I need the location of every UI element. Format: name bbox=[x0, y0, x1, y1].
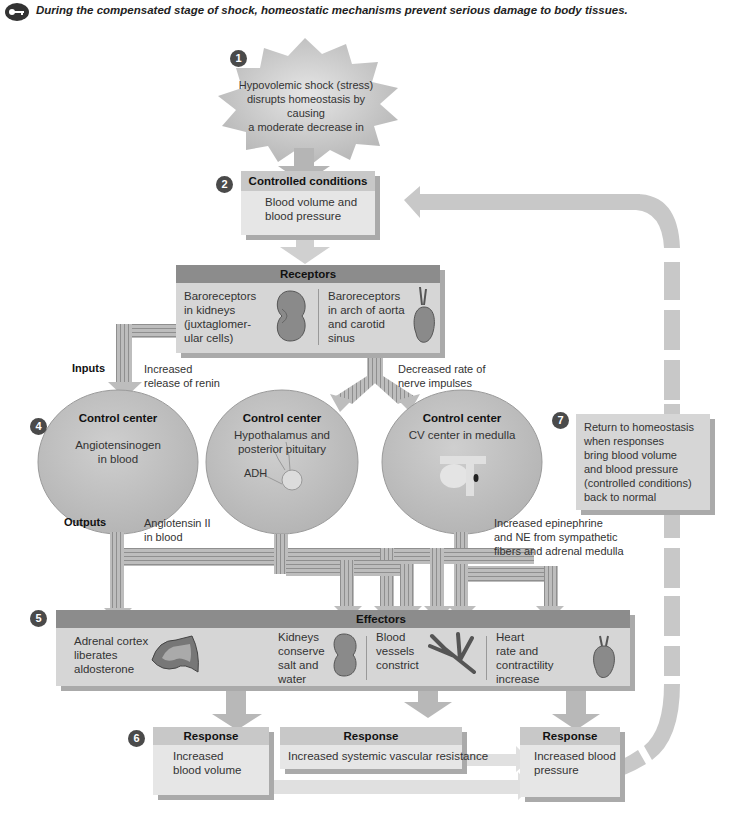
controlled-line: Blood volume and bbox=[265, 195, 375, 209]
note-line: Angiotensin II bbox=[144, 516, 211, 530]
response-body: Increased blood pressure bbox=[520, 745, 620, 797]
effectors-title: Effectors bbox=[56, 610, 630, 628]
note-line: in blood bbox=[144, 530, 211, 544]
cc-line: in blood bbox=[58, 452, 178, 466]
effector-line: liberates bbox=[74, 648, 148, 662]
response-title: Response bbox=[153, 727, 269, 745]
note-line: Increased epinephrine bbox=[494, 516, 624, 530]
kidney-icon bbox=[272, 289, 308, 347]
effector-line: Adrenal cortex bbox=[74, 634, 148, 648]
blood-vessel-icon bbox=[424, 632, 480, 680]
receptor-line: ular cells) bbox=[184, 331, 256, 345]
effector-line: Heart bbox=[496, 630, 554, 644]
effectors-box: Effectors Adrenal cortex liberates aldos… bbox=[56, 610, 630, 686]
note-line: release of renin bbox=[144, 376, 220, 390]
response-title: Response bbox=[280, 727, 462, 745]
receptor-line: in arch of aorta bbox=[328, 303, 405, 317]
outputs-label: Outputs bbox=[64, 516, 106, 528]
key-icon bbox=[4, 2, 30, 22]
response-body: Increased blood volume bbox=[153, 745, 269, 795]
note-line: Increased bbox=[144, 362, 220, 376]
effector-line: rate and bbox=[496, 644, 554, 658]
response-vascular-resistance: Response Increased systemic vascular res… bbox=[280, 727, 462, 769]
step-number-6: 6 bbox=[128, 730, 145, 747]
control-center-title: Control center bbox=[222, 412, 342, 424]
receptor-line: Baroreceptors bbox=[328, 289, 405, 303]
receptor-line: Baroreceptors bbox=[184, 289, 256, 303]
effector-line: Kidneys bbox=[278, 630, 325, 644]
note-line: and NE from sympathetic bbox=[494, 530, 624, 544]
outputs-left-note: Angiotensin II in blood bbox=[144, 516, 211, 544]
effector-heart-text: Heart rate and contractility increase bbox=[496, 630, 554, 686]
effector-line: salt and bbox=[278, 658, 325, 672]
note-line: Decreased rate of bbox=[398, 362, 485, 376]
step-number-4: 4 bbox=[30, 418, 47, 435]
return-line: (controlled conditions) bbox=[584, 476, 702, 490]
return-homeostasis-box: Return to homeostasis when responses bri… bbox=[576, 414, 710, 510]
return-line: and blood pressure bbox=[584, 462, 702, 476]
response-line: pressure bbox=[534, 763, 620, 777]
receptor-aorta-text: Baroreceptors in arch of aorta and carot… bbox=[328, 289, 405, 345]
note-line: fibers and adrenal medulla bbox=[494, 544, 624, 558]
receptor-divider bbox=[318, 289, 319, 345]
control-center-3: Control center CV center in medulla bbox=[402, 412, 522, 442]
effector-line: contractility bbox=[496, 658, 554, 672]
controlled-conditions-box: Controlled conditions Blood volume and b… bbox=[241, 171, 375, 235]
response-line: Increased blood bbox=[534, 749, 620, 763]
effector-adrenal-text: Adrenal cortex liberates aldosterone bbox=[74, 634, 148, 676]
step-number-5: 5 bbox=[30, 610, 47, 627]
receptor-kidney-text: Baroreceptors in kidneys (juxtaglomer- u… bbox=[184, 289, 256, 345]
stress-line: Hypovolemic shock (stress) bbox=[236, 78, 376, 92]
response-body: Increased systemic vascular resistance bbox=[280, 745, 462, 769]
effector-kidney-text: Kidneys conserve salt and water bbox=[278, 630, 325, 686]
kidney-icon bbox=[330, 632, 358, 682]
effector-divider bbox=[366, 636, 367, 680]
receptors-title: Receptors bbox=[176, 265, 440, 283]
response-line: Increased systemic vascular resistance bbox=[288, 749, 462, 763]
step-number-1: 1 bbox=[230, 50, 247, 67]
cc-line: Hypothalamus and bbox=[222, 428, 342, 442]
control-center-title: Control center bbox=[58, 412, 178, 424]
adh-label: ADH bbox=[244, 466, 267, 480]
receptor-line: and carotid bbox=[328, 317, 405, 331]
effector-line: aldosterone bbox=[74, 662, 148, 676]
heart-icon bbox=[590, 634, 618, 684]
effector-line: vessels bbox=[376, 644, 419, 658]
effector-vessels-text: Blood vessels constrict bbox=[376, 630, 419, 672]
response-title: Response bbox=[520, 727, 620, 745]
effector-line: Blood bbox=[376, 630, 419, 644]
return-line: Return to homeostasis bbox=[584, 420, 702, 434]
effector-line: water bbox=[278, 672, 325, 686]
controlled-conditions-body: Blood volume and blood pressure bbox=[241, 191, 375, 235]
return-line: bring blood volume bbox=[584, 448, 702, 462]
stress-line: a moderate decrease in bbox=[236, 120, 376, 134]
response-line: blood volume bbox=[173, 763, 269, 777]
cc-line: posterior pituitary bbox=[222, 442, 342, 456]
response-blood-volume: Response Increased blood volume bbox=[153, 727, 269, 795]
control-center-body: Angiotensinogen in blood bbox=[58, 438, 178, 466]
receptor-line: sinus bbox=[328, 331, 405, 345]
return-line: when responses bbox=[584, 434, 702, 448]
receptor-line: in kidneys bbox=[184, 303, 256, 317]
effector-line: conserve bbox=[278, 644, 325, 658]
response-blood-pressure: Response Increased blood pressure bbox=[520, 727, 620, 797]
effector-divider bbox=[486, 636, 487, 680]
control-center-body: CV center in medulla bbox=[402, 428, 522, 442]
inputs-label: Inputs bbox=[72, 362, 105, 374]
control-center-1: Control center Angiotensinogen in blood bbox=[58, 412, 178, 466]
step-number-7: 7 bbox=[552, 412, 569, 429]
control-center-body: Hypothalamus and posterior pituitary bbox=[222, 428, 342, 456]
inputs-right-note: Decreased rate of nerve impulses bbox=[398, 362, 485, 390]
control-center-title: Control center bbox=[402, 412, 522, 424]
step-number-2: 2 bbox=[216, 176, 233, 193]
controlled-conditions-title: Controlled conditions bbox=[241, 171, 375, 191]
effector-line: constrict bbox=[376, 658, 419, 672]
response-line: Increased bbox=[173, 749, 269, 763]
controlled-line: blood pressure bbox=[265, 209, 375, 223]
inputs-left-note: Increased release of renin bbox=[144, 362, 220, 390]
figure-caption: During the compensated stage of shock, h… bbox=[36, 4, 628, 16]
outputs-right-note: Increased epinephrine and NE from sympat… bbox=[494, 516, 624, 558]
stress-line: disrupts homeostasis by causing bbox=[236, 92, 376, 120]
effectors-body: Adrenal cortex liberates aldosterone Kid… bbox=[56, 628, 630, 686]
receptors-body: Baroreceptors in kidneys (juxtaglomer- u… bbox=[176, 283, 440, 353]
